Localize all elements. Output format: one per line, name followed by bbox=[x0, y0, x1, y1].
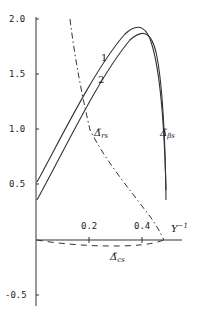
curve-2-label: 2 bbox=[98, 74, 104, 85]
curve-1-label: 1 bbox=[101, 52, 107, 63]
chart: 2.0 1.5 1.0 0.5 -0.5 0.2 0.4 1 2 Δ̃rs Δ̃… bbox=[0, 0, 200, 319]
y-ticks bbox=[36, 19, 142, 295]
delta-cs-label: Δ̃cs bbox=[109, 251, 125, 264]
y-tick-label: 1.5 bbox=[9, 69, 25, 79]
x-tick-label: 0.2 bbox=[81, 221, 97, 231]
delta-bs-label: Δ̃βs bbox=[159, 127, 175, 140]
delta-rs-label: Δ̃rs bbox=[93, 127, 109, 140]
x-tick-label: 0.4 bbox=[134, 221, 150, 231]
y-tick-label: -0.5 bbox=[5, 290, 27, 300]
y-tick-label: 2.0 bbox=[9, 14, 25, 24]
x-axis-label: Y−1 bbox=[171, 222, 188, 234]
curve-delta-cs bbox=[37, 240, 164, 246]
y-tick-label: 0.5 bbox=[9, 179, 25, 189]
y-tick-label: 1.0 bbox=[9, 124, 25, 134]
curve-delta-rs bbox=[70, 19, 164, 240]
